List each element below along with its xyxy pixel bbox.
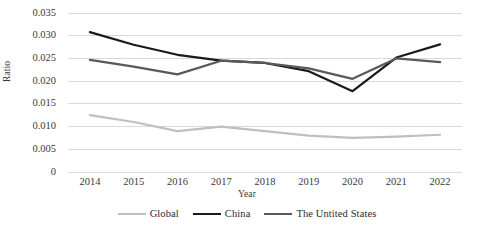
x-tick-label: 2021 (386, 176, 407, 187)
line-chart: Ratio 00.0050.0100.0150.0200.0250.0300.0… (0, 0, 494, 237)
y-axis-tick-labels: 00.0050.0100.0150.0200.0250.0300.035 (0, 0, 62, 237)
legend-swatch (193, 213, 221, 215)
legend-item[interactable]: The Untited States (264, 208, 376, 219)
x-tick-label: 2015 (123, 176, 144, 187)
y-tick-label: 0.010 (0, 121, 62, 132)
x-tick-label: 2018 (255, 176, 276, 187)
x-tick-label: 2017 (211, 176, 232, 187)
legend-item[interactable]: China (193, 208, 251, 219)
y-tick-label: 0.015 (0, 98, 62, 109)
legend-swatch (118, 213, 146, 215)
x-tick-label: 2014 (79, 176, 100, 187)
series-line (90, 58, 440, 78)
x-tick-label: 2019 (298, 176, 319, 187)
y-tick-label: 0 (0, 167, 62, 178)
legend-label: Global (150, 208, 179, 219)
x-tick-label: 2020 (342, 176, 363, 187)
x-tick-label: 2022 (430, 176, 451, 187)
legend-swatch (264, 213, 292, 215)
y-tick-label: 0.020 (0, 76, 62, 87)
y-tick-label: 0.035 (0, 8, 62, 19)
y-tick-label: 0.030 (0, 30, 62, 41)
x-axis-title: Year (0, 189, 494, 199)
legend-label: The Untited States (296, 208, 376, 219)
legend-item[interactable]: Global (118, 208, 179, 219)
y-tick-label: 0.005 (0, 144, 62, 155)
chart-legend: GlobalChinaThe Untited States (0, 208, 494, 219)
y-tick-label: 0.025 (0, 53, 62, 64)
x-tick-label: 2016 (167, 176, 188, 187)
plot-area (68, 13, 462, 172)
plot-svg (68, 13, 462, 172)
legend-label: China (225, 208, 251, 219)
